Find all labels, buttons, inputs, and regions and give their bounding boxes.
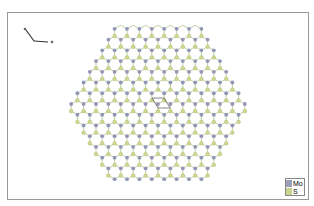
s-atom: [162, 77, 166, 81]
mo-atom: [218, 145, 222, 149]
s-atom: [107, 109, 111, 113]
s-atom: [193, 174, 197, 178]
s-atom: [144, 109, 148, 113]
mo-atom: [206, 124, 210, 128]
s-atom: [125, 163, 129, 167]
mo-atom: [125, 48, 129, 52]
s-atom: [138, 77, 142, 81]
mo-atom: [125, 91, 129, 95]
mo-atom: [125, 113, 129, 117]
mo-atom: [231, 102, 235, 106]
mo-atom: [162, 91, 166, 95]
s-atom: [162, 56, 166, 60]
s-atom: [100, 77, 104, 81]
s-atom: [212, 77, 216, 81]
s-atom: [156, 109, 160, 113]
mo-atom: [206, 167, 210, 171]
s-atom: [206, 174, 210, 178]
s-atom: [113, 77, 117, 81]
mo-atom: [150, 177, 154, 181]
s-atom: [224, 77, 228, 81]
mo-atom: [169, 167, 173, 171]
mo-atom: [94, 59, 98, 63]
s-atom: [224, 120, 228, 124]
mo-atom: [224, 70, 228, 74]
s-atom: [231, 109, 235, 113]
element-legend: Mo S: [285, 178, 305, 196]
mo-atom: [200, 177, 204, 181]
legend-item-s: S: [286, 187, 304, 195]
s-atom: [206, 88, 210, 92]
mo-atom: [119, 124, 123, 128]
mo-atom: [193, 38, 197, 42]
mo-atom: [231, 124, 235, 128]
mo-atom: [113, 27, 117, 31]
s-atom: [218, 131, 222, 135]
s-atom: [150, 141, 154, 145]
s-atom: [88, 120, 92, 124]
mo-atom: [218, 124, 222, 128]
mo-atom: [175, 177, 179, 181]
s-atom: [156, 66, 160, 70]
s-atom: [193, 88, 197, 92]
s-atom: [125, 141, 129, 145]
s-atom: [144, 152, 148, 156]
mo-atom: [200, 156, 204, 160]
s-atom: [94, 66, 98, 70]
s-atom: [181, 88, 185, 92]
mo-atom: [187, 156, 191, 160]
s-atom: [144, 45, 148, 49]
mo-atom: [119, 59, 123, 63]
s-atom: [119, 131, 123, 135]
mo-atom: [200, 91, 204, 95]
mo-atom: [162, 156, 166, 160]
s-atom: [162, 163, 166, 167]
s-atom: [162, 141, 166, 145]
s-atom: [113, 34, 117, 38]
mo-atom: [200, 70, 204, 74]
mo-atom: [150, 70, 154, 74]
s-atom: [131, 45, 135, 49]
s-atom: [237, 120, 241, 124]
mo-atom: [113, 70, 117, 74]
mo-atom: [175, 27, 179, 31]
s-atom: [237, 99, 241, 103]
mo-atom: [162, 70, 166, 74]
s-atom: [181, 174, 185, 178]
mo-atom: [169, 124, 173, 128]
s-atom: [156, 174, 160, 178]
s-atom: [82, 109, 86, 113]
s-atom: [231, 88, 235, 92]
s-atom: [187, 141, 191, 145]
mo-atom: [113, 113, 117, 117]
s-atom: [243, 109, 247, 113]
s-atom: [187, 77, 191, 81]
s-atom: [113, 141, 117, 145]
s-atom: [131, 109, 135, 113]
s-atom: [94, 88, 98, 92]
mo-atom: [162, 48, 166, 52]
mo-atom: [113, 134, 117, 138]
mo-atom: [181, 102, 185, 106]
mo-atom: [218, 81, 222, 85]
mo-atom: [187, 70, 191, 74]
mo-swatch: [286, 180, 292, 187]
s-atom: [175, 120, 179, 124]
structure-viewer[interactable]: Mo S: [7, 12, 309, 200]
mo-atom: [193, 145, 197, 149]
s-atom: [200, 99, 204, 103]
s-atom: [100, 56, 104, 60]
s-atom: [138, 163, 142, 167]
s-atom: [138, 141, 142, 145]
mo-atom: [113, 177, 117, 181]
mo-atom: [82, 81, 86, 85]
s-atom: [125, 99, 129, 103]
mo-atom: [200, 134, 204, 138]
s-atom: [175, 56, 179, 60]
s-atom: [100, 120, 104, 124]
s-atom: [131, 152, 135, 156]
s-atom: [119, 174, 123, 178]
s-atom: [169, 66, 173, 70]
s-atom: [181, 109, 185, 113]
mo-atom: [181, 59, 185, 63]
